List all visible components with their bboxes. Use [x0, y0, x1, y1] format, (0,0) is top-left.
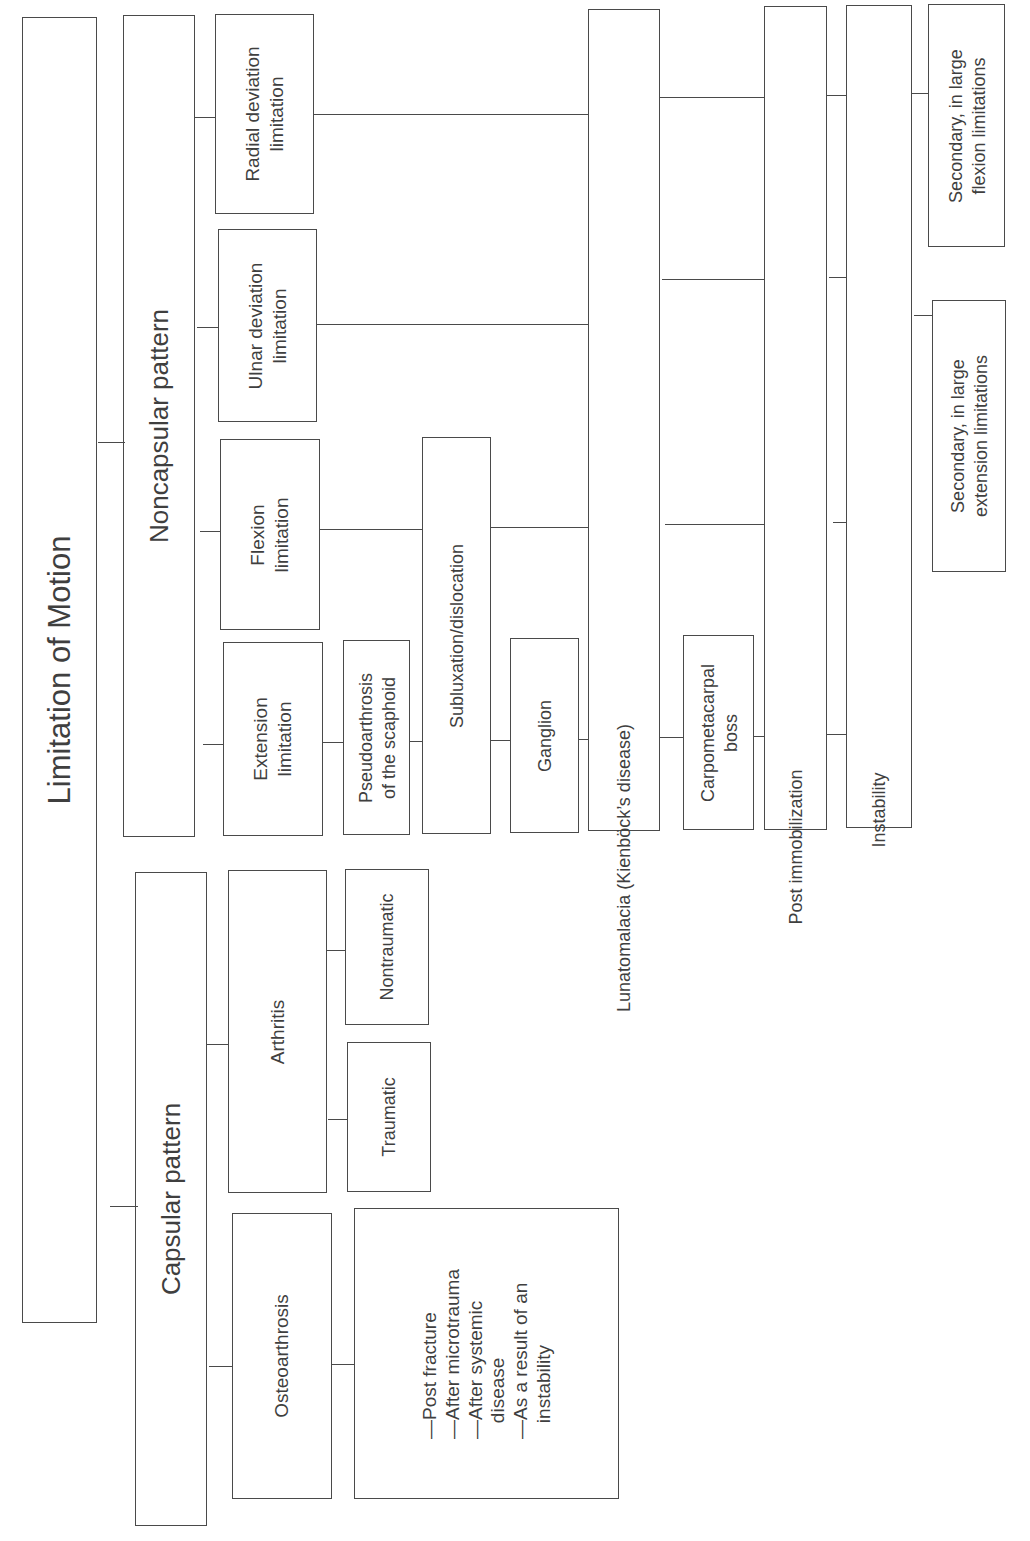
connector-carpometacarpal-postimmob — [754, 736, 765, 737]
connector-instability-secondary-extension — [914, 315, 933, 316]
secondary-flexion-limitations-box: Secondary, in large flexion limitations — [928, 4, 1005, 247]
secondary-extension-limitations-box: Secondary, in large extension limitation… — [932, 300, 1006, 572]
connector-lunatomalacia-postimmob-f — [665, 524, 765, 525]
connector-postimmob-instability-r — [827, 95, 847, 96]
noncapsular-pattern-box: Noncapsular pattern — [123, 15, 195, 837]
noncapsular-pattern-label: Noncapsular pattern — [143, 309, 176, 543]
connector-extension-pseudoarthrosis — [323, 742, 344, 743]
osteoarthrosis-causes-list: —Post fracture —After microtrauma —After… — [418, 1269, 555, 1439]
traumatic-box: Traumatic — [347, 1042, 431, 1192]
post-immobilization-box: Post immobilization — [764, 6, 827, 830]
pseudoarthrosis-scaphoid-label: Pseudoarthrosis of the scaphoid — [354, 672, 399, 802]
connector-noncapsular-radial — [195, 117, 216, 118]
capsular-pattern-box: Capsular pattern — [135, 872, 207, 1526]
nontraumatic-box: Nontraumatic — [345, 869, 429, 1025]
connector-pseudoarthrosis-subluxation — [410, 741, 423, 742]
instability-label: Instability — [868, 772, 891, 847]
extension-limitation-box: Extension limitation — [223, 642, 323, 836]
arthritis-box: Arthritis — [228, 870, 327, 1193]
flexion-limitation-box: Flexion limitation — [220, 439, 320, 630]
lunatomalacia-box: Lunatomalacia (Kienböck’s disease) — [588, 9, 660, 831]
root-label: Limitation of Motion — [40, 536, 79, 805]
connector-instability-secondary-flexion — [912, 93, 929, 94]
secondary-extension-limitations-label: Secondary, in large extension limitation… — [947, 355, 992, 517]
carpometacarpal-boss-label: Carpometacarpal boss — [696, 663, 741, 801]
instability-box: Instability — [846, 5, 912, 828]
post-immobilization-label: Post immobilization — [784, 769, 807, 924]
osteoarthrosis-causes-box: —Post fracture —After microtrauma —After… — [354, 1208, 619, 1499]
connector-flexion-subluxation — [320, 529, 423, 530]
secondary-flexion-limitations-label: Secondary, in large flexion limitations — [944, 49, 989, 203]
root-box-limitation-of-motion: Limitation of Motion — [22, 17, 97, 1323]
connector-ulnar-lunatomalacia — [317, 324, 589, 325]
ulnar-deviation-limitation-label: Ulnar deviation limitation — [244, 262, 292, 389]
lunatomalacia-label: Lunatomalacia (Kienböck’s disease) — [613, 724, 636, 1012]
flexion-limitation-label: Flexion limitation — [246, 497, 294, 572]
radial-deviation-limitation-box: Radial deviation limitation — [215, 14, 314, 214]
connector-capsular-arthritis — [207, 1044, 229, 1045]
connector-noncapsular-ulnar — [197, 327, 219, 328]
osteoarthrosis-label: Osteoarthrosis — [270, 1294, 294, 1418]
connector-noncapsular-extension — [203, 744, 224, 745]
arthritis-label: Arthritis — [266, 999, 290, 1063]
connector-lunatomalacia-carpometacarpal — [660, 737, 684, 738]
connector-capsular-osteoarthrosis — [209, 1366, 233, 1367]
connector-lunatomalacia-postimmob-u — [662, 279, 765, 280]
connector-lunatomalacia-postimmob-r — [660, 97, 765, 98]
ulnar-deviation-limitation-box: Ulnar deviation limitation — [218, 229, 317, 422]
connector-arthritis-nontraumatic — [326, 950, 346, 951]
connector-noncapsular-flexion — [200, 531, 221, 532]
osteoarthrosis-box: Osteoarthrosis — [232, 1213, 332, 1499]
connector-arthritis-traumatic — [328, 1119, 348, 1120]
connector-osteoarthrosis-causes — [332, 1364, 355, 1365]
ganglion-box: Ganglion — [510, 638, 579, 833]
connector-root-noncapsular — [98, 442, 125, 443]
ganglion-label: Ganglion — [533, 699, 556, 771]
subluxation-dislocation-box: Subluxation/dislocation — [422, 437, 491, 834]
extension-limitation-label: Extension limitation — [249, 697, 297, 780]
connector-postimmob-instability-u — [829, 277, 847, 278]
connector-radial-lunatomalacia — [314, 114, 589, 115]
nontraumatic-label: Nontraumatic — [376, 893, 399, 1000]
connector-subluxation-ganglion — [491, 740, 511, 741]
subluxation-dislocation-label: Subluxation/dislocation — [445, 543, 468, 727]
radial-deviation-limitation-label: Radial deviation limitation — [241, 46, 289, 181]
connector-postimmob-instability-f — [833, 522, 847, 523]
connector-postimmob-instability-e — [827, 734, 847, 735]
capsular-pattern-label: Capsular pattern — [155, 1103, 188, 1295]
connector-ganglion-lunatomalacia — [579, 739, 589, 740]
pseudoarthrosis-scaphoid-box: Pseudoarthrosis of the scaphoid — [343, 640, 410, 835]
traumatic-label: Traumatic — [378, 1077, 401, 1156]
connector-subluxation-lunatomalacia — [491, 527, 589, 528]
carpometacarpal-boss-box: Carpometacarpal boss — [683, 635, 754, 830]
connector-root-capsular — [110, 1206, 138, 1207]
